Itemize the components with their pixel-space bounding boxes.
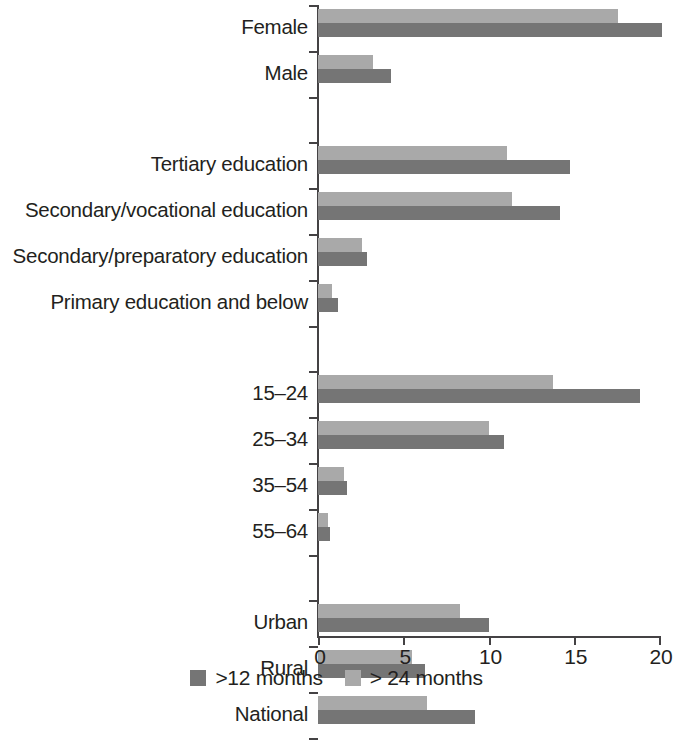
y-axis-tick xyxy=(309,371,318,373)
bar-over-24-months xyxy=(318,55,373,69)
category-label: Female xyxy=(0,16,308,38)
bar-row xyxy=(318,5,659,51)
x-axis-tick xyxy=(659,636,661,645)
category-label: 15–24 xyxy=(0,382,308,404)
bar-over-24-months xyxy=(318,146,507,160)
bar-row xyxy=(318,463,659,509)
bar-over-24-months xyxy=(318,513,328,527)
bar-row xyxy=(318,188,659,234)
y-axis-tick xyxy=(309,738,318,740)
y-axis-tick xyxy=(309,463,318,465)
bar-over-24-months xyxy=(318,696,427,710)
y-axis-tick xyxy=(309,509,318,511)
bar-row xyxy=(318,371,659,417)
y-axis-tick xyxy=(309,188,318,190)
bar-over-12-months xyxy=(318,69,391,83)
category-label: Primary education and below xyxy=(0,291,308,313)
bar-over-24-months xyxy=(318,284,332,298)
y-axis-tick xyxy=(309,51,318,53)
bar-row xyxy=(318,234,659,280)
y-axis-tick xyxy=(309,692,318,694)
chart-legend: >12 months> 24 months xyxy=(0,666,673,690)
category-label: 25–34 xyxy=(0,428,308,450)
plot-area xyxy=(318,5,659,637)
bar-over-24-months xyxy=(318,9,618,23)
legend-label: >12 months xyxy=(215,666,322,690)
bar-over-12-months xyxy=(318,206,560,220)
category-label: National xyxy=(0,703,308,725)
y-axis-tick xyxy=(309,97,318,99)
y-axis-tick xyxy=(309,5,318,7)
legend-swatch-icon xyxy=(190,670,206,686)
bar-over-24-months xyxy=(318,238,362,252)
bar-row xyxy=(318,509,659,555)
bar-row xyxy=(318,417,659,463)
bar-over-12-months xyxy=(318,23,662,37)
bar-row xyxy=(318,692,659,738)
legend-item: >12 months xyxy=(190,666,322,690)
bar-over-24-months xyxy=(318,604,460,618)
bar-row xyxy=(318,280,659,326)
bar-over-12-months xyxy=(318,160,570,174)
y-axis-tick xyxy=(309,600,318,602)
bar-over-24-months xyxy=(318,192,512,206)
category-label: Male xyxy=(0,62,308,84)
bar-over-12-months xyxy=(318,389,640,403)
bar-row-spacer xyxy=(318,555,659,601)
bar-over-24-months xyxy=(318,467,344,481)
category-label: Tertiary education xyxy=(0,153,308,175)
y-axis-tick xyxy=(309,417,318,419)
y-axis-tick xyxy=(309,142,318,144)
bar-over-24-months xyxy=(318,375,553,389)
legend-item: > 24 months xyxy=(345,666,483,690)
y-axis-tick xyxy=(309,326,318,328)
bar-row-spacer xyxy=(318,326,659,372)
bar-row-spacer xyxy=(318,97,659,143)
bar-over-24-months xyxy=(318,421,489,435)
x-axis-tick xyxy=(574,636,576,645)
category-label: 55–64 xyxy=(0,520,308,542)
bar-row xyxy=(318,142,659,188)
bar-over-12-months xyxy=(318,481,347,495)
category-label: Secondary/vocational education xyxy=(0,199,308,221)
category-label: Urban xyxy=(0,611,308,633)
category-label: 35–54 xyxy=(0,474,308,496)
bar-over-12-months xyxy=(318,618,489,632)
bar-over-12-months xyxy=(318,710,475,724)
y-axis-tick xyxy=(309,234,318,236)
bar-over-12-months xyxy=(318,435,504,449)
legend-label: > 24 months xyxy=(370,666,483,690)
legend-swatch-icon xyxy=(345,670,361,686)
bar-over-12-months xyxy=(318,298,338,312)
y-axis-tick xyxy=(309,280,318,282)
x-axis-tick xyxy=(403,636,405,645)
bar-over-12-months xyxy=(318,252,367,266)
bar-row xyxy=(318,51,659,97)
x-axis-tick xyxy=(318,636,320,645)
category-label: Secondary/preparatory education xyxy=(0,245,308,267)
y-axis-tick xyxy=(309,555,318,557)
bar-over-12-months xyxy=(318,527,330,541)
x-axis-tick xyxy=(489,636,491,645)
